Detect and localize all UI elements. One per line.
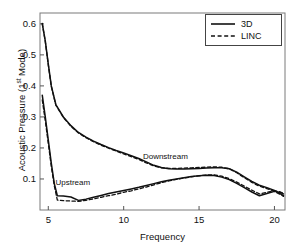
legend-label-3d: 3D	[241, 19, 253, 29]
annotation-upstream: Upstream	[55, 178, 90, 187]
legend-line-solid	[210, 19, 236, 29]
series-linc-downstream	[42, 24, 283, 197]
figure: 0.10.20.30.40.50.6 5101520 Acoustic Pres…	[0, 0, 297, 248]
y-tick-label: 0.6	[3, 18, 36, 29]
legend-label-linc: LINC	[241, 31, 262, 41]
x-axis-title: Frequency	[40, 231, 285, 242]
legend-item-linc[interactable]: LINC	[210, 30, 277, 42]
series-3d-downstream	[42, 24, 283, 196]
x-tick-label: 15	[184, 214, 214, 225]
legend-item-3d[interactable]: 3D	[210, 18, 277, 30]
y-axis-title: Acoustic Pressure (1st Mode)	[15, 35, 27, 185]
x-tick-label: 10	[109, 214, 139, 225]
x-tick-label: 20	[259, 214, 289, 225]
legend[interactable]: 3D LINC	[205, 14, 282, 46]
x-tick-label: 5	[33, 214, 63, 225]
legend-line-dashed	[210, 31, 236, 41]
annotation-downstream: Downstream	[143, 152, 188, 161]
series-layer	[42, 24, 283, 202]
